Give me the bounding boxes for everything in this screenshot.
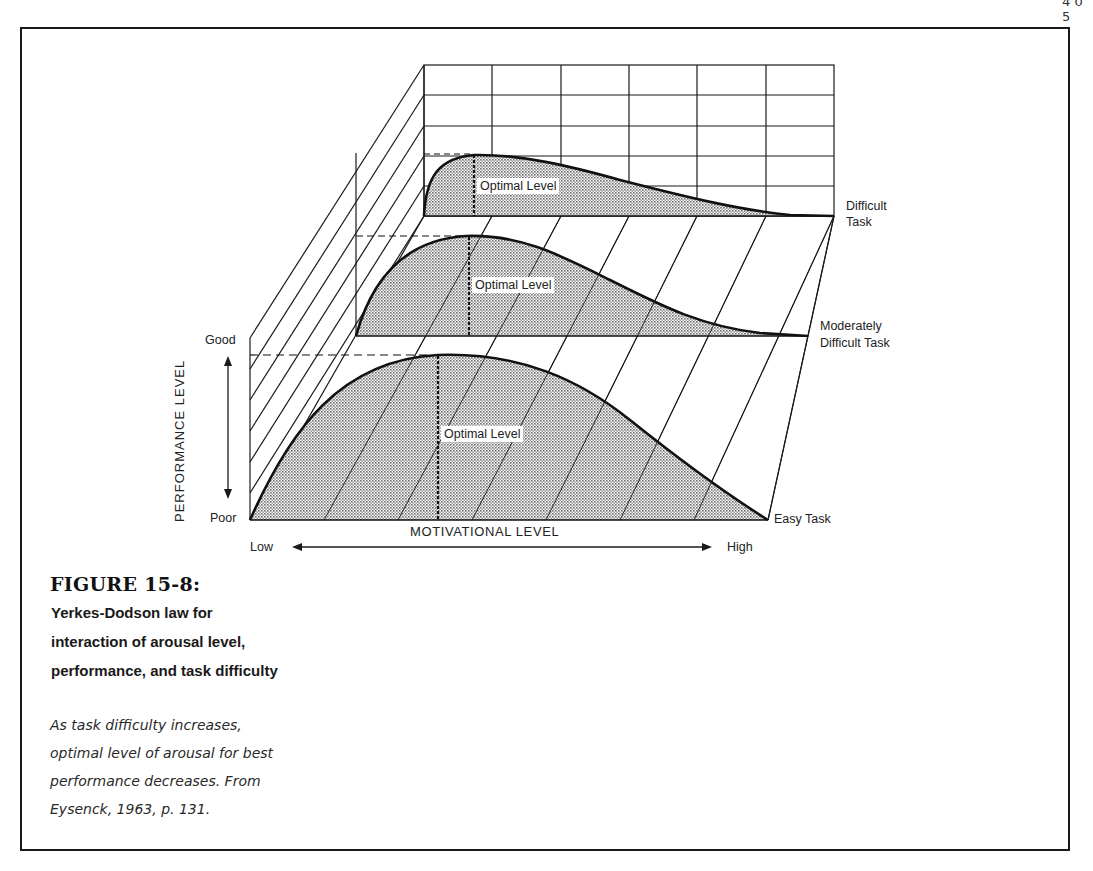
optimal-label-moderate: Optimal Level [472,277,554,293]
y-low-label: Poor [210,511,236,526]
x-high-label: High [727,540,753,555]
caption-line: optimal level of arousal for best [50,739,320,767]
figure-title-line: performance, and task difficulty [51,656,311,685]
figure-number: FIGURE 15-8: [50,573,200,595]
figure-title-line: Yerkes-Dodson law for [51,598,311,627]
y-axis-title: PERFORMANCE LEVEL [172,360,187,522]
right-edge [768,216,834,520]
y-axis-arrow [224,356,232,499]
label-difficult-task-2: Task [846,215,872,230]
optimal-label-difficult: Optimal Level [477,178,559,194]
curve-moderate [356,236,808,336]
figure-title: Yerkes-Dodson law for interaction of aro… [51,598,311,685]
caption-line: Eysenck, 1963, p. 131. [50,795,320,823]
label-easy-task: Easy Task [774,512,831,527]
label-moderate-task-2: Difficult Task [820,336,890,351]
caption-line: As task difficulty increases, [50,711,320,739]
optimal-label-easy: Optimal Level [441,426,523,442]
label-difficult-task-1: Difficult [846,199,887,214]
figure-caption: As task difficulty increases, optimal le… [50,711,320,823]
caption-line: performance decreases. From [50,767,320,795]
y-high-label: Good [205,333,236,348]
x-axis-title: MOTIVATIONAL LEVEL [410,524,559,539]
label-moderate-task-1: Moderately [820,319,882,334]
figure-title-line: interaction of arousal level, [51,627,311,656]
x-axis-arrow [292,543,712,551]
x-low-label: Low [250,540,273,555]
